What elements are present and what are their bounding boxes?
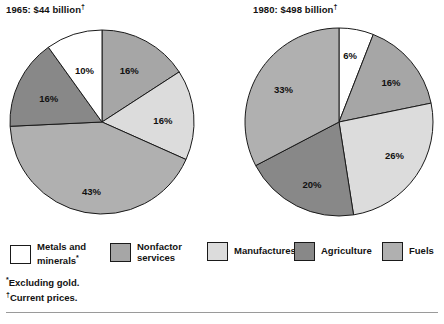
pie-slice-label: 26% bbox=[385, 150, 405, 161]
legend-label: Nonfactor services bbox=[137, 242, 182, 263]
legend-footnote-mark: * bbox=[76, 254, 79, 261]
pie-chart-1965: 16%16%43%16%10% bbox=[8, 26, 200, 222]
pie-slice-label: 16% bbox=[120, 65, 140, 76]
chart-title-1965-dagger: † bbox=[81, 3, 85, 10]
legend-label: Manufactures bbox=[234, 246, 296, 257]
legend-item-agriculture[interactable]: Agriculture bbox=[294, 242, 372, 261]
pie-slice-label: 16% bbox=[382, 77, 402, 88]
chart-title-1965: 1965: $44 billion† bbox=[6, 3, 85, 15]
legend-swatch bbox=[110, 243, 131, 262]
chart-legend: Metals and minerals*Nonfactor servicesMa… bbox=[0, 236, 444, 270]
legend-label: Metals and minerals* bbox=[37, 242, 86, 266]
legend-swatch bbox=[10, 245, 31, 264]
pie-slice-label: 16% bbox=[153, 115, 173, 126]
chart-title-1965-text: 1965: $44 billion bbox=[6, 4, 81, 15]
pie-slice-label: 16% bbox=[39, 93, 59, 104]
pie-slices-1980 bbox=[245, 28, 433, 216]
legend-item-fuels[interactable]: Fuels bbox=[382, 242, 434, 261]
legend-swatch bbox=[382, 242, 403, 261]
chart-title-1980-text: 1980: $498 billion bbox=[253, 4, 333, 15]
pie-svg-1965: 16%16%43%16%10% bbox=[8, 26, 200, 222]
footnote: *Excluding gold. bbox=[6, 274, 79, 289]
legend-label: Agriculture bbox=[321, 246, 372, 257]
pie-slice-label: 10% bbox=[75, 65, 95, 76]
footnotes: *Excluding gold.†Current prices. bbox=[6, 274, 79, 304]
pie-svg-1980: 6%16%26%20%33% bbox=[243, 26, 439, 222]
pie-slice-label: 33% bbox=[274, 84, 294, 95]
clipped-caption-strip bbox=[6, 314, 438, 324]
footnote: †Current prices. bbox=[6, 289, 79, 304]
footnote-text: Excluding gold. bbox=[9, 277, 80, 288]
pie-chart-1980: 6%16%26%20%33% bbox=[243, 26, 439, 222]
pie-slice-label: 43% bbox=[82, 186, 102, 197]
legend-item-metals[interactable]: Metals and minerals* bbox=[10, 242, 86, 266]
chart-title-1980: 1980: $498 billion† bbox=[253, 3, 337, 15]
chart-title-1980-dagger: † bbox=[333, 3, 337, 10]
legend-item-nonfactor[interactable]: Nonfactor services bbox=[110, 242, 182, 263]
pie-slice-label: 6% bbox=[343, 50, 357, 61]
bottom-divider bbox=[6, 312, 438, 313]
legend-label: Fuels bbox=[409, 246, 434, 257]
legend-swatch bbox=[294, 242, 315, 261]
legend-item-manufactures[interactable]: Manufactures bbox=[207, 242, 296, 261]
pie-slice-label: 20% bbox=[302, 179, 322, 190]
footnote-text: Current prices. bbox=[10, 292, 78, 303]
legend-swatch bbox=[207, 242, 228, 261]
